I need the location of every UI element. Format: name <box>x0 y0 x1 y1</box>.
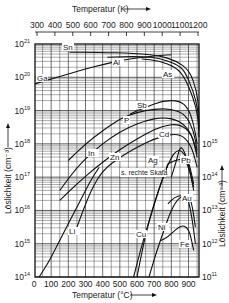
left-tick-label: 1014 <box>14 271 30 282</box>
bottom-tick-label: 600 <box>130 279 144 289</box>
left-tick-label: 1021 <box>14 38 30 49</box>
curve-label-in: In <box>88 149 95 158</box>
curve-label-p: P <box>124 116 129 125</box>
left-tick-label: 1017 <box>14 171 30 182</box>
left-axis-title: Löslichkeit (cm⁻³) <box>3 147 13 214</box>
right-tick-label: 1014 <box>202 171 218 182</box>
top-tick-label: 800 <box>119 20 133 30</box>
right-tick-label: 1011 <box>202 271 217 282</box>
top-tick-label: 1100 <box>171 20 190 30</box>
bottom-tick-label: 400 <box>96 279 110 289</box>
solubility-chart: Temperatur (K) 3004005006007008009001000… <box>0 0 229 303</box>
top-tick-label: 1200 <box>189 20 208 30</box>
top-tick-label: 300 <box>30 20 44 30</box>
bottom-tick-label: 800 <box>164 279 178 289</box>
curve-label-fe: Fe <box>180 240 190 249</box>
curve-label-as: As <box>163 70 172 79</box>
right-tick-label: 1012 <box>202 238 218 249</box>
curve-sn <box>70 52 200 127</box>
curve-label-al: Al <box>113 58 120 67</box>
curve-li <box>39 167 99 277</box>
left-tick-label: 1018 <box>14 138 30 149</box>
curve-label-cu: Cu <box>136 230 146 239</box>
bottom-axis-arrowhead-icon <box>152 293 157 297</box>
right-axis-arrowhead-icon <box>220 165 224 170</box>
bottom-tick-label: 700 <box>147 279 161 289</box>
top-axis-ticks: 300400500600700800900100011001200 <box>30 20 208 36</box>
bottom-tick-label: 200 <box>61 279 75 289</box>
left-axis-arrowhead-icon <box>6 123 10 128</box>
left-tick-label: 1019 <box>14 105 30 116</box>
bottom-tick-label: 100 <box>44 279 58 289</box>
curve-label-ag: Ag <box>148 156 158 165</box>
curve-label-ni: Ni <box>158 223 166 232</box>
curve-label-zn: Zn <box>110 153 119 162</box>
left-tick-label: 1016 <box>14 204 30 215</box>
bottom-axis-title: Temperatur (°C) <box>72 290 133 300</box>
top-tick-label: 900 <box>137 20 151 30</box>
top-tick-label: 1000 <box>153 20 172 30</box>
top-tick-label: 700 <box>101 20 115 30</box>
curve-label-au: Au <box>182 194 192 203</box>
bottom-tick-label: 0 <box>32 279 37 289</box>
right-tick-label: 1013 <box>202 204 218 215</box>
curve-label-pb: Pb <box>181 156 191 165</box>
top-tick-label: 400 <box>48 20 62 30</box>
annotation-right-scale: s. rechte Skala <box>121 169 167 176</box>
left-axis-ticks: 10141015101610171018101910201021 <box>14 38 30 282</box>
curve-label-li: Li <box>69 227 75 236</box>
bottom-tick-label: 300 <box>78 279 92 289</box>
top-tick-label: 600 <box>84 20 98 30</box>
left-tick-label: 1015 <box>14 238 30 249</box>
curve-label-sb: Sb <box>137 101 147 110</box>
bottom-axis-ticks: 0100200300400500600700800900 <box>32 279 196 289</box>
top-axis-arrowhead-icon <box>146 7 151 11</box>
curve-label-ga: Ga <box>37 74 48 83</box>
right-tick-label: 1015 <box>202 138 218 149</box>
curve-label-sn: Sn <box>63 43 73 52</box>
right-axis-ticks: 10111012101310141015 <box>202 138 218 282</box>
top-tick-label: 500 <box>66 20 80 30</box>
right-axis-title: Löslichkeit (cm⁻³) <box>217 180 227 247</box>
top-axis-title: Temperatur (K) <box>72 4 129 14</box>
curve-ga <box>35 55 171 84</box>
curve-label-cd: Cd <box>159 130 169 139</box>
bottom-tick-label: 500 <box>113 279 127 289</box>
bottom-tick-label: 900 <box>181 279 195 289</box>
left-tick-label: 1020 <box>14 71 30 82</box>
